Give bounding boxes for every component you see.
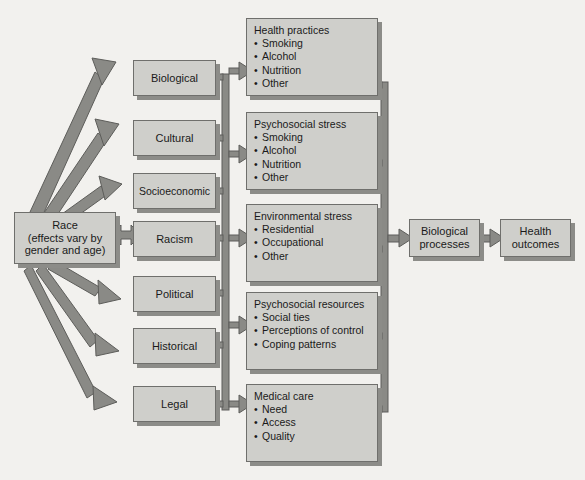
list-item-label: Other [262,250,288,262]
list-item-label: Other [262,77,288,89]
race-line-1: Race [25,219,106,232]
race-line-2: (effects vary by [25,232,106,245]
bullet-icon: • [254,50,262,63]
list-item-label: Social ties [262,311,310,323]
bullet-icon: • [254,144,262,157]
list-item: •Other [254,250,371,263]
outcome-line-1: Health [512,225,560,238]
bus-mediators-to-biological-processes [374,82,413,412]
bullet-icon: • [254,430,262,443]
factor-box-biological[interactable]: Biological [133,60,216,96]
list-item: •Quality [254,430,371,443]
bullet-icon: • [254,236,262,249]
mediator-list-environmental-stress: •Residential •Occupational •Other [254,223,371,263]
list-item-label: Smoking [262,131,303,143]
bullet-icon: • [254,223,262,236]
factor-box-cultural[interactable]: Cultural [133,120,216,156]
list-item-label: Residential [262,223,314,235]
mediator-box-health-practices[interactable]: Health practices •Smoking •Alcohol •Nutr… [246,18,378,96]
list-item: •Coping patterns [254,338,371,351]
mediator-heading-medical-care: Medical care [254,390,371,402]
list-item-label: Other [262,171,288,183]
bullet-icon: • [254,131,262,144]
list-item-label: Perceptions of control [262,324,364,336]
factor-box-racism[interactable]: Racism [133,221,216,257]
bullet-icon: • [254,338,262,351]
mediator-heading-health-practices: Health practices [254,24,371,36]
list-item-label: Need [262,403,287,415]
list-item: •Alcohol [254,50,371,63]
list-item: •Nutrition [254,64,371,77]
list-item: •Other [254,77,371,90]
list-item-label: Alcohol [262,144,296,156]
factor-box-historical[interactable]: Historical [133,328,216,364]
list-item: •Occupational [254,236,371,249]
outcome-line-1: Biological [419,225,469,238]
factor-label-cultural: Cultural [156,132,194,145]
mediator-box-environmental-stress[interactable]: Environmental stress •Residential •Occup… [246,204,378,282]
diagram-canvas: Race (effects vary by gender and age) Bi… [0,0,585,480]
list-item-label: Nutrition [262,64,301,76]
bullet-icon: • [254,37,262,50]
bullet-icon: • [254,250,262,263]
list-item-label: Coping patterns [262,338,336,350]
list-item: •Other [254,171,371,184]
list-item-label: Alcohol [262,50,296,62]
factor-box-socioeconomic[interactable]: Socioeconomic [133,173,216,209]
list-item: •Alcohol [254,144,371,157]
bullet-icon: • [254,64,262,77]
list-item: •Need [254,403,371,416]
factor-label-socioeconomic: Socioeconomic [139,185,210,197]
list-item: •Social ties [254,311,371,324]
factor-label-legal: Legal [161,398,188,411]
mediator-box-psychosocial-stress[interactable]: Psychosocial stress •Smoking •Alcohol •N… [246,112,378,190]
bullet-icon: • [254,416,262,429]
mediator-list-psychosocial-stress: •Smoking •Alcohol •Nutrition •Other [254,131,371,184]
outcome-box-biological-processes[interactable]: Biological processes [409,219,480,257]
factor-label-racism: Racism [156,233,193,246]
mediator-list-health-practices: •Smoking •Alcohol •Nutrition •Other [254,37,371,90]
list-item: •Perceptions of control [254,324,371,337]
list-item: •Smoking [254,131,371,144]
list-item: •Residential [254,223,371,236]
list-item: •Smoking [254,37,371,50]
outcome-line-2: outcomes [512,238,560,251]
factor-label-biological: Biological [151,72,198,85]
list-item: •Nutrition [254,158,371,171]
outcome-line-2: processes [419,238,469,251]
mediator-box-medical-care[interactable]: Medical care •Need •Access •Quality [246,384,378,462]
bullet-icon: • [254,77,262,90]
bullet-icon: • [254,158,262,171]
race-box[interactable]: Race (effects vary by gender and age) [14,212,116,264]
factor-box-political[interactable]: Political [133,276,216,312]
mediator-box-psychosocial-resources[interactable]: Psychosocial resources •Social ties •Per… [246,292,378,370]
bullet-icon: • [254,311,262,324]
factor-label-historical: Historical [152,340,197,353]
factor-label-political: Political [156,288,194,301]
list-item-label: Access [262,416,296,428]
list-item-label: Nutrition [262,158,301,170]
mediator-heading-environmental-stress: Environmental stress [254,210,371,222]
mediator-list-medical-care: •Need •Access •Quality [254,403,371,443]
bullet-icon: • [254,403,262,416]
list-item: •Access [254,416,371,429]
list-item-label: Smoking [262,37,303,49]
mediator-heading-psychosocial-stress: Psychosocial stress [254,118,371,130]
mediator-list-psychosocial-resources: •Social ties •Perceptions of control •Co… [254,311,371,351]
outcome-box-health-outcomes[interactable]: Health outcomes [500,219,571,257]
race-line-3: gender and age) [25,244,106,257]
mediator-heading-psychosocial-resources: Psychosocial resources [254,298,371,310]
bullet-icon: • [254,324,262,337]
list-item-label: Quality [262,430,295,442]
factor-box-legal[interactable]: Legal [133,386,216,422]
list-item-label: Occupational [262,236,323,248]
bullet-icon: • [254,171,262,184]
